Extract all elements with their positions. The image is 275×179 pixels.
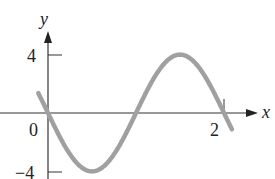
y-axis-label: y	[38, 9, 48, 29]
y-tick-label-neg4: −4	[15, 163, 34, 179]
y-axis-arrow-icon	[44, 31, 52, 43]
x-axis-arrow-icon	[246, 109, 258, 117]
chart-canvas: y x 4 −4 0 2	[0, 0, 275, 179]
x-axis-label: x	[261, 102, 270, 122]
y-tick-label-4: 4	[27, 46, 36, 66]
x-tick-label-2: 2	[210, 120, 219, 140]
origin-label: 0	[29, 120, 38, 140]
